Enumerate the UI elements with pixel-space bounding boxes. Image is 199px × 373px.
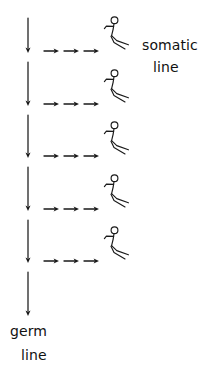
somatic-row-2-arrow-3 xyxy=(84,102,99,107)
somatic-row-1-arrow-2 xyxy=(64,49,79,54)
somatic-row-3-arrow-1 xyxy=(44,154,59,159)
germ-line-segment-1 xyxy=(26,18,31,53)
somatic-line-label-word1: somatic xyxy=(142,38,198,52)
somatic-row-3 xyxy=(44,122,128,159)
somatic-row-2-arrow-2 xyxy=(64,102,79,107)
somatic-row-4-arrow-1 xyxy=(44,207,59,212)
somatic-row-3-arrow-3 xyxy=(84,154,99,159)
somatic-row-1-arrow-3 xyxy=(84,49,99,54)
stick-figure-icon xyxy=(104,175,128,207)
germ-soma-diagram xyxy=(0,0,199,373)
germ-line-label-word1: germ xyxy=(10,324,47,338)
stick-figure-icon xyxy=(104,70,128,102)
somatic-row-5-arrow-3 xyxy=(84,259,99,264)
somatic-row-2-arrow-1 xyxy=(44,102,59,107)
somatic-row-5-arrow-2 xyxy=(64,259,79,264)
somatic-row-3-arrow-2 xyxy=(64,154,79,159)
somatic-row-5-arrow-1 xyxy=(44,259,59,264)
stick-figure-icon xyxy=(104,122,128,154)
somatic-row-2 xyxy=(44,70,128,107)
germ-line-segment-6 xyxy=(26,272,31,316)
somatic-row-5 xyxy=(44,227,128,264)
somatic-row-1 xyxy=(44,17,128,54)
somatic-row-1-arrow-1 xyxy=(44,49,59,54)
stick-figure-icon xyxy=(104,227,128,259)
stick-figure-icon xyxy=(104,17,128,49)
germ-line-segment-2 xyxy=(26,62,31,106)
germ-line-segment-5 xyxy=(26,220,31,263)
germ-line-segment-3 xyxy=(26,115,31,158)
somatic-row-4-arrow-2 xyxy=(64,207,79,212)
diagram-canvas: somatic line germ line xyxy=(0,0,199,373)
germ-line-segment-4 xyxy=(26,167,31,211)
germ-line-arrow-column xyxy=(26,18,31,316)
somatic-row-4-arrow-3 xyxy=(84,207,99,212)
somatic-line-label-word2: line xyxy=(153,60,179,74)
germ-line-label-word2: line xyxy=(21,348,47,362)
somatic-row-4 xyxy=(44,175,128,212)
